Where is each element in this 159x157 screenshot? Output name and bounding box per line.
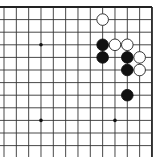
star-point	[39, 119, 43, 123]
black-stone	[122, 64, 134, 76]
go-board	[0, 0, 159, 157]
white-stone	[122, 39, 134, 51]
star-point	[113, 119, 117, 123]
black-stone	[97, 52, 109, 64]
white-stone	[97, 14, 109, 26]
stones	[97, 14, 146, 101]
white-stone	[134, 64, 146, 76]
black-stone	[122, 52, 134, 64]
white-stone	[134, 52, 146, 64]
black-stone	[122, 89, 134, 101]
white-stone	[109, 39, 121, 51]
black-stone	[97, 39, 109, 51]
grid-lines	[0, 7, 152, 157]
star-point	[39, 43, 43, 47]
